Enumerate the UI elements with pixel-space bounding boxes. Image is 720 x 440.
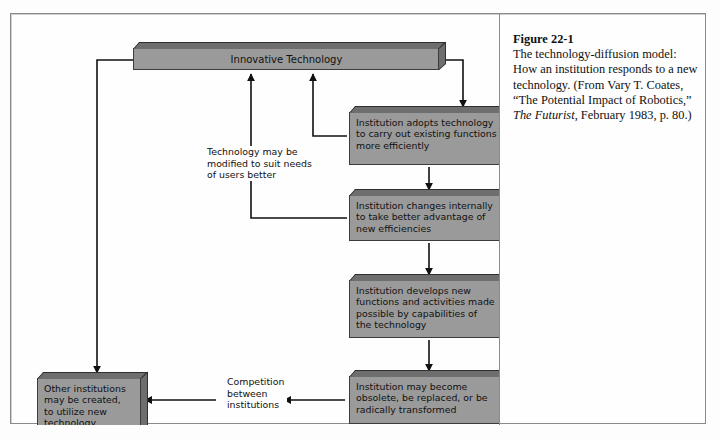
node-institution-changes-label: Institution changes internally to take b… bbox=[356, 200, 499, 234]
caption-line-1: The technology-diffusion bbox=[513, 47, 639, 61]
node-other-institutions[interactable]: Other institutions may be created, to ut… bbox=[37, 378, 141, 425]
edge-technology-to-other-institutions bbox=[97, 60, 133, 373]
node-institution-obsolete-label: Institution may become obsolete, be repl… bbox=[356, 381, 499, 415]
node-innovative-technology-label: Innovative Technology bbox=[140, 54, 433, 65]
node-innovative-technology[interactable]: Innovative Technology bbox=[133, 48, 439, 70]
node-institution-changes[interactable]: Institution changes internally to take b… bbox=[349, 195, 499, 241]
figure-caption: Figure 22-1 The technology-diffusion mod… bbox=[513, 32, 703, 123]
edge-technology-to-adopt bbox=[441, 60, 463, 107]
frame-divider bbox=[499, 14, 500, 425]
edge-label-technology-modified: Technology may be modified to suit needs… bbox=[207, 146, 312, 181]
edge-label-competition: Competition between institutions bbox=[224, 376, 287, 411]
node-institution-adopts-label: Institution adopts technology to carry o… bbox=[356, 117, 499, 151]
flowchart-diagram: Innovative Technology Institution adopts… bbox=[11, 14, 499, 425]
node-institution-develops[interactable]: Institution develops new functions and a… bbox=[349, 280, 499, 338]
caption-line-7: p. 80.) bbox=[660, 108, 692, 122]
figure-frame: Innovative Technology Institution adopts… bbox=[10, 13, 706, 424]
node-institution-obsolete[interactable]: Institution may become obsolete, be repl… bbox=[349, 376, 499, 424]
figure-number: Figure 22-1 bbox=[513, 32, 703, 47]
caption-line-6-rest: , February 1983, bbox=[575, 108, 657, 122]
diagram-clip: Innovative Technology Institution adopts… bbox=[11, 14, 499, 425]
edge-adopt-feedback-to-technology bbox=[313, 74, 347, 136]
caption-source-title: The Futurist bbox=[513, 108, 575, 122]
node-other-institutions-label: Other institutions may be created, to ut… bbox=[44, 383, 135, 425]
node-institution-develops-label: Institution develops new functions and a… bbox=[356, 285, 499, 331]
caption-line-5: Potential Impact of Robotics,” bbox=[541, 93, 692, 107]
node-institution-adopts[interactable]: Institution adopts technology to carry o… bbox=[349, 112, 499, 165]
